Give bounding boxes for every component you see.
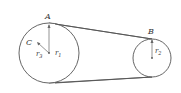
label-a: A — [44, 12, 51, 21]
label-b: B — [147, 27, 154, 36]
small-center — [151, 57, 153, 59]
belt-pulley-diagram: A B C r1 r3 r2 — [0, 0, 181, 93]
label-c: C — [26, 38, 32, 47]
large-center — [48, 52, 50, 54]
diagram-canvas: A B C r1 r3 r2 — [0, 0, 181, 93]
